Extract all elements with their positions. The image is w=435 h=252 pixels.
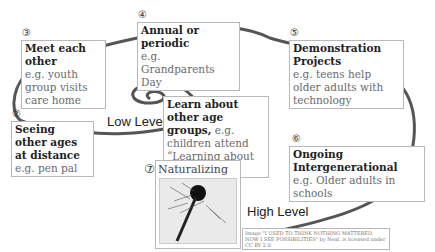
step-4-box: Annual or periodice.g. Grandparents Day bbox=[137, 22, 240, 91]
step-3-box: Meet each othere.g. youth group visits c… bbox=[21, 40, 106, 109]
step-6-box: Ongoing Intergenerationale.g. Older adul… bbox=[289, 146, 425, 202]
step-2-title: Seeing other ages at distance bbox=[15, 123, 80, 161]
low-level-label: Low Level bbox=[107, 114, 166, 129]
step-4-number: ④ bbox=[138, 9, 147, 20]
step-7-number: ⑦ bbox=[144, 162, 155, 176]
step-2-box: Seeing other ages at distance e.g. pen p… bbox=[11, 121, 94, 177]
step-4-title: Annual or periodic bbox=[141, 24, 199, 49]
step-7-box: Naturalizing IG bbox=[155, 160, 241, 249]
step-3-number: ③ bbox=[22, 27, 31, 38]
step-5-title: Demonstration Projects bbox=[293, 42, 381, 67]
step-6-title: Ongoing Intergenerational bbox=[293, 148, 398, 173]
image-credit: Image "I USED TO THINK NOTHING MATTERED.… bbox=[242, 228, 390, 250]
step-2-example: e.g. pen pal bbox=[15, 162, 77, 174]
step-3-title: Meet each other bbox=[25, 42, 86, 67]
step-4-example: e.g. Grandparents Day bbox=[141, 50, 215, 88]
step-2-number: ② bbox=[12, 108, 21, 119]
dandelion-image-icon bbox=[160, 179, 236, 243]
step-5-example: e.g. teens help older adults with techno… bbox=[293, 68, 383, 106]
step-5-box: Demonstration Projectse.g. teens help ol… bbox=[289, 40, 404, 109]
high-level-label: High Level bbox=[247, 204, 308, 219]
step-6-number: ⑥ bbox=[292, 133, 301, 144]
naturalizing-ig-photo bbox=[159, 178, 237, 244]
step-5-number: ⑤ bbox=[290, 27, 299, 38]
step-6-example: e.g. Older adults in schools bbox=[293, 174, 395, 199]
step-3-example: e.g. youth group visits care home bbox=[25, 68, 88, 106]
